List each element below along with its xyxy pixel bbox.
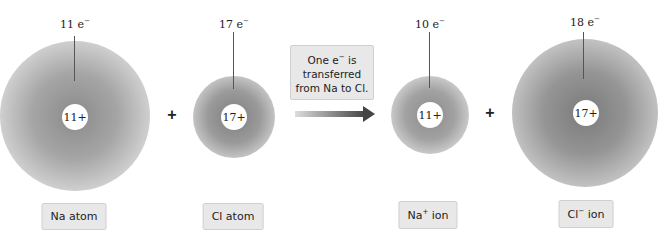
plus-sign-right: + (485, 104, 494, 122)
cl-ion-nucleus: 17+ (573, 100, 599, 126)
cl-ion-electron-count: 18 e− (570, 15, 600, 29)
na-ion-label: Na+ ion (398, 201, 457, 229)
cl-atom-nucleus: 17+ (221, 104, 247, 130)
na-atom-label: Na atom (42, 203, 107, 230)
na-ion-electron-pointer (429, 32, 430, 88)
na-atom-electron-pointer (74, 36, 75, 81)
na-atom-electron-count: 11 e− (60, 17, 90, 31)
transfer-callout: One e− is transferred from Na to Cl. (290, 45, 374, 100)
na-ion-electron-count: 10 e− (415, 17, 445, 31)
cl-atom-electron-pointer (233, 32, 234, 89)
na-atom-nucleus: 11+ (62, 104, 88, 130)
plus-sign-left: + (167, 106, 176, 124)
cl-ion-electron-pointer (583, 32, 584, 79)
cl-ion-label: Cl− ion (559, 200, 614, 228)
transfer-arrow (295, 111, 365, 117)
cl-atom-electron-count: 17 e− (219, 17, 249, 31)
na-ion-nucleus: 11+ (417, 102, 443, 128)
arrowhead-icon (363, 106, 375, 122)
cl-atom-label: Cl atom (203, 203, 264, 230)
